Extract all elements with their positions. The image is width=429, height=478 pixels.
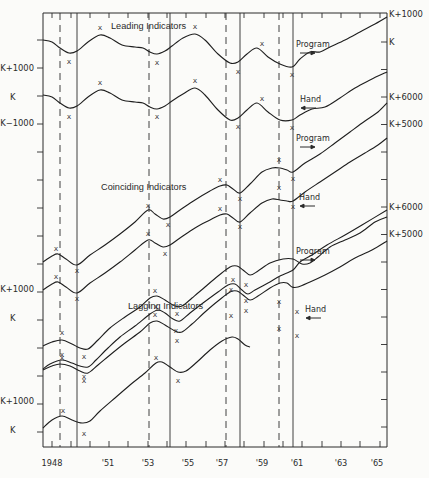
turning-point-x-marker: x bbox=[236, 122, 241, 131]
indicator-curve bbox=[43, 17, 387, 67]
indicator-curve bbox=[43, 72, 387, 121]
turning-point-x-marker: x bbox=[238, 194, 243, 203]
arrow-head-icon bbox=[311, 258, 315, 262]
x-axis-label: '57 bbox=[216, 458, 229, 468]
turning-point-x-marker: x bbox=[98, 23, 103, 32]
turning-point-x-marker: x bbox=[290, 70, 295, 79]
turning-point-x-marker: x bbox=[82, 372, 87, 381]
turning-point-x-marker: x bbox=[277, 183, 282, 192]
turning-point-x-marker: x bbox=[75, 294, 80, 303]
turning-point-x-marker: x bbox=[153, 286, 158, 295]
indicator-curve bbox=[43, 217, 387, 350]
x-axis-label: '55 bbox=[182, 458, 195, 468]
turning-point-x-marker: x bbox=[229, 311, 234, 320]
turning-point-x-marker: x bbox=[146, 229, 151, 238]
group-title: Leading Indicators bbox=[111, 21, 186, 31]
left-axis-label: K bbox=[10, 425, 16, 435]
turning-point-x-marker: x bbox=[244, 296, 249, 305]
turning-point-x-marker: x bbox=[218, 175, 223, 184]
turning-point-x-marker: x bbox=[82, 429, 87, 438]
turning-point-x-marker: x bbox=[260, 39, 265, 48]
turning-point-x-marker: x bbox=[244, 306, 249, 315]
turning-point-x-marker: x bbox=[236, 67, 241, 76]
turning-point-x-marker: x bbox=[54, 272, 59, 281]
right-axis-labels: K+1000KK+6000K+5000K+6000K+5000 bbox=[389, 9, 423, 239]
group-titles: Leading IndicatorsCoinciding IndicatorsL… bbox=[101, 21, 203, 311]
right-axis-label: K+6000 bbox=[389, 92, 423, 102]
series-annotations: ProgramHandProgramHandProgramHand bbox=[296, 40, 330, 320]
left-axis-label: K+1000 bbox=[0, 396, 34, 406]
axis-ticks bbox=[37, 13, 387, 447]
turning-point-x-marker: x bbox=[154, 353, 159, 362]
x-axis-labels: 1948'51'53'55'57'59'61'63'65 bbox=[42, 458, 384, 468]
right-axis-label: K+6000 bbox=[389, 202, 423, 212]
turning-point-x-marker: x bbox=[174, 326, 179, 335]
indicator-curve bbox=[43, 210, 387, 369]
plot-frame bbox=[43, 13, 387, 447]
arrow-head-icon bbox=[300, 204, 304, 208]
turning-point-x-marker: x bbox=[153, 310, 158, 319]
turning-point-x-marker: x bbox=[231, 275, 236, 284]
turning-point-x-marker: x bbox=[98, 78, 103, 87]
x-axis-label: '53 bbox=[142, 458, 155, 468]
x-axis-label: '51 bbox=[102, 458, 115, 468]
indicator-curve bbox=[43, 337, 250, 428]
left-axis-label: K+1000 bbox=[0, 284, 34, 294]
left-axis-label: K−1000 bbox=[0, 118, 34, 128]
business-cycle-indicators-chart: xxxxxxxxxxxxxxxxxxxxxxxxxxxxxxxxxxxxxxxx… bbox=[0, 0, 429, 478]
turning-point-x-marker: x bbox=[155, 58, 160, 67]
right-axis-label: K bbox=[389, 37, 395, 47]
turning-point-markers: xxxxxxxxxxxxxxxxxxxxxxxxxxxxxxxxxxxxxxxx… bbox=[54, 22, 300, 438]
turning-point-x-marker: x bbox=[291, 174, 296, 183]
series-annotation-label: Hand bbox=[300, 95, 321, 104]
turning-point-x-marker: x bbox=[60, 328, 65, 337]
left-axis-label: K bbox=[10, 313, 16, 323]
series-annotation-label: Program bbox=[296, 247, 330, 256]
arrow-head-icon bbox=[311, 145, 315, 149]
left-axis-label: K+1000 bbox=[0, 63, 34, 73]
turning-point-x-marker: x bbox=[229, 285, 234, 294]
arrow-head-icon bbox=[301, 106, 305, 110]
series-annotation-label: Hand bbox=[305, 305, 326, 314]
right-axis-label: K+1000 bbox=[389, 9, 423, 19]
turning-point-x-marker: x bbox=[277, 155, 282, 164]
indicator-curve bbox=[43, 241, 387, 373]
turning-point-x-marker: x bbox=[295, 307, 300, 316]
turning-point-x-marker: x bbox=[244, 280, 249, 289]
turning-point-x-marker: x bbox=[290, 123, 295, 132]
turning-point-x-marker: x bbox=[75, 266, 80, 275]
x-axis-label: '59 bbox=[256, 458, 269, 468]
x-axis-label: '61 bbox=[291, 458, 304, 468]
turning-point-x-marker: x bbox=[176, 376, 181, 385]
left-axis-labels: K+1000KK−1000K+1000KK+1000K bbox=[0, 63, 34, 435]
turning-point-x-marker: x bbox=[54, 244, 59, 253]
turning-point-x-marker: x bbox=[60, 350, 65, 359]
turning-point-x-marker: x bbox=[260, 94, 265, 103]
right-axis-label: K+5000 bbox=[389, 229, 423, 239]
turning-point-x-marker: x bbox=[155, 112, 160, 121]
turning-point-x-marker: x bbox=[193, 76, 198, 85]
turning-point-x-marker: x bbox=[277, 324, 282, 333]
turning-point-x-marker: x bbox=[238, 222, 243, 231]
x-axis-label: '63 bbox=[335, 458, 348, 468]
series-annotation-label: Program bbox=[296, 40, 330, 49]
turning-point-x-marker: x bbox=[146, 201, 151, 210]
turning-point-x-marker: x bbox=[67, 57, 72, 66]
turning-point-x-marker: x bbox=[295, 331, 300, 340]
group-title: Lagging Indicators bbox=[128, 301, 203, 311]
turning-point-x-marker: x bbox=[166, 220, 171, 229]
arrow-head-icon bbox=[306, 316, 310, 320]
turning-point-x-marker: x bbox=[82, 352, 87, 361]
series-annotation-label: Hand bbox=[299, 193, 320, 202]
turning-point-x-marker: x bbox=[218, 204, 223, 213]
left-axis-label: K bbox=[10, 92, 16, 102]
x-axis-label: 1948 bbox=[42, 458, 63, 468]
turning-point-x-marker: x bbox=[277, 297, 282, 306]
turning-point-x-marker: x bbox=[67, 112, 72, 121]
plot-border bbox=[43, 13, 387, 447]
turning-point-x-marker: x bbox=[291, 202, 296, 211]
group-title: Coinciding Indicators bbox=[101, 182, 187, 192]
indicator-curves bbox=[43, 17, 387, 428]
turning-point-x-marker: x bbox=[175, 336, 180, 345]
turning-point-x-marker: x bbox=[61, 406, 66, 415]
